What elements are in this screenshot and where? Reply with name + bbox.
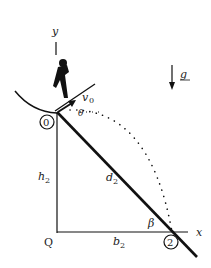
ski-jump-diagram: y x g v 0 θ h 2 d 2 b 2 β Q 0 2 xyxy=(0,0,211,268)
height-sub: 2 xyxy=(45,176,50,185)
beta-label: β xyxy=(147,217,154,230)
gravity-label: g xyxy=(180,68,187,81)
point-0-label: 0 xyxy=(43,117,49,128)
theta-label: θ xyxy=(78,108,84,118)
ramp-curve xyxy=(15,91,57,113)
slope-line xyxy=(57,112,197,257)
distance-label: d xyxy=(106,171,113,184)
point-2-label: 2 xyxy=(167,237,173,248)
skier-icon xyxy=(53,59,69,98)
corner-q-label: Q xyxy=(44,236,53,249)
base-sub: 2 xyxy=(120,241,125,250)
gravity-arrowhead xyxy=(169,82,175,90)
x-axis-label: x xyxy=(196,226,203,239)
velocity-label: v xyxy=(82,91,89,104)
y-axis-label: y xyxy=(51,25,59,38)
base-label: b xyxy=(113,235,120,248)
distance-sub: 2 xyxy=(113,177,118,186)
velocity-sub: 0 xyxy=(89,96,94,105)
